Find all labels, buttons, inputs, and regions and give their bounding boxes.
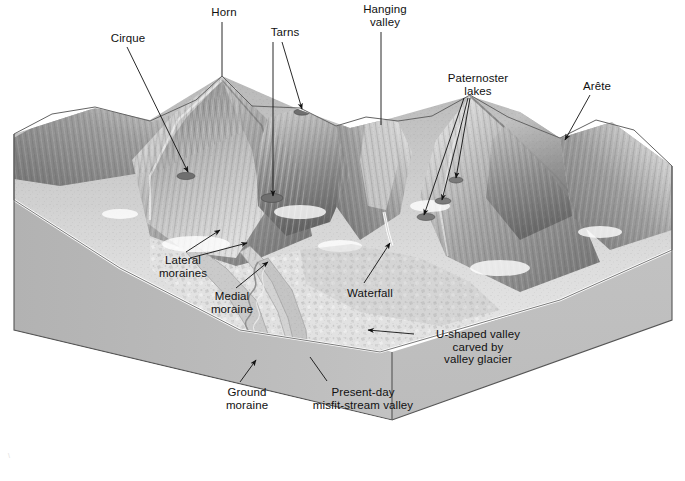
leader-lateral-a — [186, 230, 220, 252]
leader-paternoster-b — [442, 98, 468, 200]
leader-ground-moraine — [240, 360, 256, 382]
label-medial-moraine: Medial moraine — [196, 290, 268, 315]
label-arete: Arête — [570, 80, 624, 93]
leader-u-shaped — [368, 330, 414, 334]
label-tarns: Tarns — [259, 26, 311, 39]
label-u-shaped-valley: U-shaped valley carved by valley glacier — [420, 328, 536, 366]
leader-cirque — [127, 47, 188, 172]
label-lateral-moraines: Lateral moraines — [146, 254, 220, 279]
leader-misfit — [310, 357, 327, 381]
leader-waterfall — [364, 243, 390, 283]
label-ground-moraine: Ground moraine — [212, 386, 282, 411]
label-horn: Horn — [196, 6, 252, 19]
leader-arete — [565, 95, 590, 140]
glacial-landforms-block-diagram: HornCirqueTarnsHanging valleyPaternoster… — [0, 0, 685, 481]
label-waterfall: Waterfall — [338, 287, 402, 300]
leader-tarns-b — [282, 42, 302, 109]
label-hanging-valley: Hanging valley — [352, 3, 418, 28]
leader-medial — [236, 262, 268, 288]
label-paternoster: Paternoster lakes — [432, 72, 524, 97]
leader-paternoster-a — [424, 98, 464, 215]
label-cirque: Cirque — [100, 32, 156, 45]
label-misfit-stream: Present-day misfit-stream valley — [298, 386, 428, 411]
corner-credit-mark: \ — [8, 452, 10, 459]
